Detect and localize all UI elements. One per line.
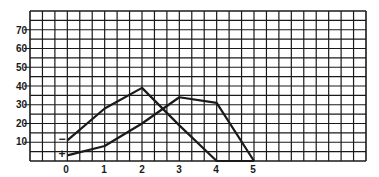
y-tick-label: 60 [16,43,28,54]
x-tick-label: 2 [139,164,145,175]
x-tick-label: 1 [101,164,107,175]
x-tick-label: 5 [250,164,256,175]
x-tick-label: 4 [213,164,219,175]
line-chart: 70 60 50 40 30 20 10 0 1 2 3 4 5 − + [0,0,379,177]
plus-marker: + [58,147,65,161]
y-tick-label: 30 [16,99,28,110]
y-tick-label: 70 [16,25,28,36]
x-tick-label: 3 [176,164,182,175]
x-axis-ticks: 0 1 2 3 4 5 [63,164,256,175]
x-tick-label: 0 [63,164,69,175]
minus-marker: − [58,132,65,146]
y-tick-label: 10 [16,136,28,147]
chart-series [67,88,254,161]
y-tick-label: 40 [16,81,28,92]
chart-grid [24,11,366,161]
y-tick-label: 50 [16,62,28,73]
y-axis-ticks: 70 60 50 40 30 20 10 [16,25,28,147]
y-tick-label: 20 [16,118,28,129]
series-minus-line [67,88,254,161]
